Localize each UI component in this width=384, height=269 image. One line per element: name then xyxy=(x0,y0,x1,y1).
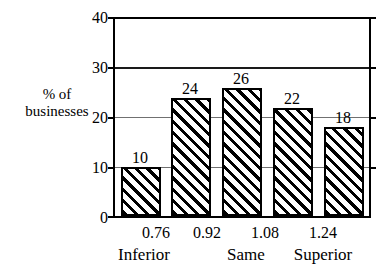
y-tick-label-20: 20 xyxy=(78,110,108,126)
x-tick-label-0-92: 0.92 xyxy=(179,225,235,241)
y-tick-label-30: 30 xyxy=(78,60,108,76)
y-tick-label-0: 0 xyxy=(78,210,108,226)
bar-chart: % of businesses 40 30 20 10 0 10 24 xyxy=(0,0,384,269)
y-tick-label-10: 10 xyxy=(78,160,108,176)
bar-3[interactable] xyxy=(222,88,262,216)
bar-value-label-3: 26 xyxy=(221,71,261,87)
bar-5[interactable] xyxy=(324,127,364,216)
bar-value-label-4: 22 xyxy=(272,91,312,107)
tick-mark-right-10 xyxy=(369,167,376,169)
x-tick-label-1-08: 1.08 xyxy=(237,225,293,241)
tick-mark-right-30 xyxy=(369,67,376,69)
y-tick-label-40: 40 xyxy=(78,10,108,26)
bar-value-label-5: 18 xyxy=(323,110,363,126)
bar-value-label-1: 10 xyxy=(120,150,160,166)
bar-1[interactable] xyxy=(121,167,161,216)
bar-value-label-2: 24 xyxy=(170,81,210,97)
tick-mark-right-40 xyxy=(369,17,376,19)
x-tick-label-1-24: 1.24 xyxy=(295,225,351,241)
tick-mark-left-40 xyxy=(108,17,115,19)
x-tick-label-0-76: 0.76 xyxy=(128,225,184,241)
x-category-label-superior: Superior xyxy=(277,246,369,263)
tick-mark-left-30 xyxy=(108,67,115,69)
tick-mark-left-20 xyxy=(108,117,115,119)
bar-4[interactable] xyxy=(273,108,313,216)
x-category-label-inferior: Inferior xyxy=(98,246,190,263)
y-axis-title-line-1: % of xyxy=(6,86,108,103)
tick-mark-left-10 xyxy=(108,167,115,169)
tick-mark-right-20 xyxy=(369,117,376,119)
bar-2[interactable] xyxy=(171,98,211,216)
tick-mark-left-0 xyxy=(108,216,115,218)
